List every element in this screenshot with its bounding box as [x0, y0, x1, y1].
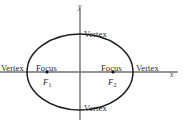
- y-axis-label: y: [78, 3, 81, 11]
- focus-label-right: Focus: [101, 64, 122, 73]
- x-axis-label: x: [170, 71, 173, 79]
- focus-2-letter: F: [108, 77, 113, 87]
- focus-1-name: F1: [43, 78, 51, 87]
- vertex-label-left: Vertex: [1, 64, 24, 73]
- ellipse-diagram: Vertex Vertex Vertex Vertex Focus Focus …: [0, 0, 193, 124]
- vertex-label-right: Vertex: [136, 64, 159, 73]
- focus-2-name: F2: [108, 78, 116, 87]
- focus-2-subscript: 2: [114, 82, 117, 88]
- focus-1-letter: F: [43, 77, 48, 87]
- focus-label-left: Focus: [36, 64, 57, 73]
- focus-1-subscript: 1: [49, 82, 52, 88]
- vertex-label-top: Vertex: [84, 30, 107, 39]
- vertex-label-bottom: Vertex: [84, 104, 107, 113]
